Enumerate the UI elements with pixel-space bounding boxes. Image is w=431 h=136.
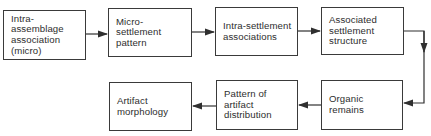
node-label-line: structure [329,36,377,47]
node-associated-settlement-structure: Associated settlement structure [321,7,404,55]
node-pattern-of-artifact-distribution: Pattern of artifact distribution [216,80,298,130]
node-label-line: Artifact [117,96,168,107]
node-micro-settlement-pattern: Micro-settlement pattern [108,8,192,57]
arrow-n4-n5 [404,31,424,103]
node-label: Artifact morphology [110,96,171,117]
node-artifact-morphology: Artifact morphology [109,82,192,131]
node-label: Pattern of artifact distribution [217,89,275,121]
node-label: Intra-assemblage association (micro) [4,14,85,56]
node-label: Associated settlement structure [322,15,380,47]
node-label-line: association [11,35,82,46]
node-label-line: morphology [117,107,168,118]
node-label-line: pattern [116,38,188,49]
node-label: Micro-settlement pattern [109,17,191,49]
node-label-line: (micro) [11,46,82,57]
node-label: Organic remains [322,94,367,115]
node-label-line: Intra-assemblage [11,14,82,35]
node-organic-remains: Organic remains [321,80,403,130]
node-label-line: distribution [224,110,272,121]
node-label-line: Micro-settlement [116,17,188,38]
node-label-line: remains [329,105,364,116]
node-label: Intra-settlement associations [216,21,294,42]
node-intra-settlement-associations: Intra-settlement associations [215,7,298,56]
node-label-line: Intra-settlement [223,21,291,32]
node-label-line: associations [223,32,291,43]
node-intra-assemblage-association: Intra-assemblage association (micro) [3,10,86,60]
